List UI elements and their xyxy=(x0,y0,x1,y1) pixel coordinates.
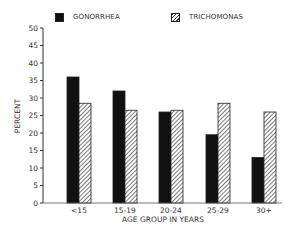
y-tick-label: 45 xyxy=(28,41,38,50)
bar-gonorrhea-0 xyxy=(67,77,79,203)
x-tick-label: <15 xyxy=(71,206,87,215)
y-tick-label: 0 xyxy=(33,199,38,208)
y-tick-label: 50 xyxy=(28,24,38,33)
y-axis: 05101520253035404550 xyxy=(28,24,43,208)
bar-trichomonas-3 xyxy=(218,103,230,203)
y-tick-label: 30 xyxy=(28,94,38,103)
y-tick-label: 25 xyxy=(28,111,38,120)
y-tick-label: 5 xyxy=(33,181,38,190)
y-axis-title: PERCENT xyxy=(13,98,22,133)
x-tick-label: 30+ xyxy=(256,206,272,215)
x-tick-label: 20-24 xyxy=(160,206,182,215)
x-tick-label: 15-19 xyxy=(114,206,136,215)
bar-chart: 05101520253035404550 <1515-1920-2425-293… xyxy=(0,0,290,235)
bar-trichomonas-1 xyxy=(125,110,137,203)
bar-gonorrhea-2 xyxy=(159,112,171,203)
y-tick-label: 40 xyxy=(28,59,38,68)
bar-trichomonas-4 xyxy=(264,112,276,203)
x-axis: <1515-1920-2425-2930+ xyxy=(43,203,282,215)
bar-gonorrhea-1 xyxy=(113,91,125,203)
y-tick-label: 35 xyxy=(28,76,38,85)
y-tick-label: 10 xyxy=(28,164,38,173)
y-tick-label: 20 xyxy=(28,129,38,138)
bar-gonorrhea-3 xyxy=(206,135,218,203)
bar-trichomonas-2 xyxy=(171,110,183,203)
x-axis-title: AGE GROUP IN YEARS xyxy=(122,215,204,224)
x-tick-label: 25-29 xyxy=(207,206,229,215)
y-tick-label: 15 xyxy=(28,146,38,155)
bar-trichomonas-0 xyxy=(79,103,91,203)
bar-gonorrhea-4 xyxy=(252,158,264,204)
bars xyxy=(67,77,276,203)
